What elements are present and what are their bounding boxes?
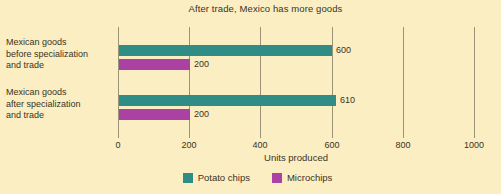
category-label-after-line3: and trade <box>6 110 114 122</box>
bar-value-after-microchips: 200 <box>194 109 209 120</box>
bar-before-microchips <box>119 59 190 70</box>
plot-area: 600 200 610 200 <box>118 27 474 138</box>
bar-after-potato-chips <box>119 95 336 106</box>
xtick-label-1000: 1000 <box>464 140 484 150</box>
legend-item-potato-chips: Potato chips <box>183 172 250 183</box>
category-label-before-line3: and trade <box>6 60 114 72</box>
gridline-600 <box>332 27 333 138</box>
legend-item-microchips: Microchips <box>272 172 332 183</box>
bar-before-potato-chips <box>119 45 332 56</box>
category-label-before-line2: before specialization <box>6 49 114 61</box>
xtick-label-800: 800 <box>395 140 410 150</box>
legend-swatch-icon-potato-chips <box>183 173 193 183</box>
xtick-label-0: 0 <box>115 140 120 150</box>
bar-value-after-potato-chips: 610 <box>340 95 355 106</box>
chart-legend: Potato chips Microchips <box>0 172 501 183</box>
category-label-after: Mexican goods after specialization and t… <box>6 87 114 122</box>
legend-label-potato-chips: Potato chips <box>198 172 250 183</box>
xtick-label-200: 200 <box>181 140 196 150</box>
chart-title: After trade, Mexico has more goods <box>0 3 501 14</box>
category-label-before-line1: Mexican goods <box>6 37 114 49</box>
xtick-label-600: 600 <box>324 140 339 150</box>
category-axis-labels: Mexican goods before specialization and … <box>6 27 114 138</box>
bar-value-before-potato-chips: 600 <box>336 45 351 56</box>
legend-label-microchips: Microchips <box>287 172 332 183</box>
gridline-200 <box>189 27 190 138</box>
bar-after-microchips <box>119 109 190 120</box>
legend-swatch-icon-microchips <box>272 173 282 183</box>
category-label-after-line1: Mexican goods <box>6 87 114 99</box>
gridline-1000 <box>474 27 475 138</box>
xtick-label-400: 400 <box>252 140 267 150</box>
gridline-400 <box>260 27 261 138</box>
x-axis-title: Units produced <box>118 152 474 163</box>
y-axis-line <box>118 27 119 138</box>
category-label-before: Mexican goods before specialization and … <box>6 37 114 72</box>
category-label-after-line2: after specialization <box>6 99 114 111</box>
bar-value-before-microchips: 200 <box>194 59 209 70</box>
bar-chart: After trade, Mexico has more goods Mexic… <box>0 0 501 194</box>
gridline-800 <box>403 27 404 138</box>
